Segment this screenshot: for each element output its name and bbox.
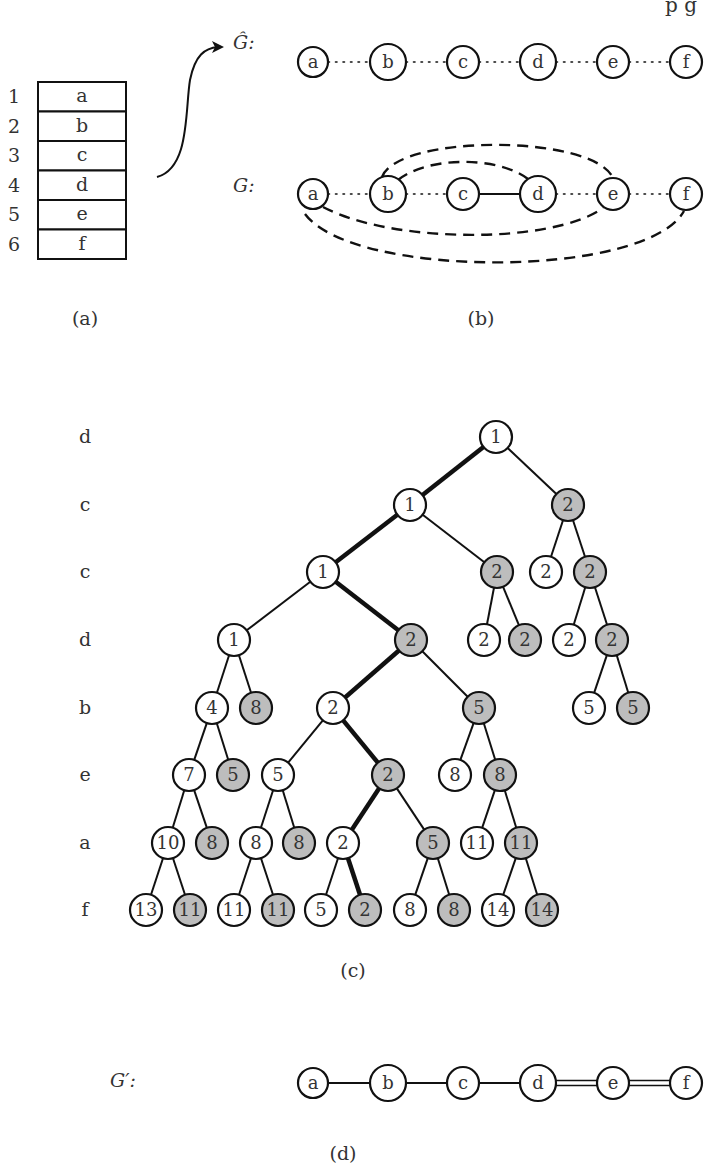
panel-a-array: 1a2b3c4d5e6f bbox=[8, 82, 126, 259]
tree-node: 10 bbox=[152, 827, 184, 859]
tree-node: 4 bbox=[196, 692, 228, 724]
level-label: c bbox=[80, 560, 91, 582]
tree-edge bbox=[574, 587, 586, 624]
row-value: b bbox=[76, 114, 88, 136]
tree-edge-optimal bbox=[352, 788, 379, 829]
array-row: 1a bbox=[8, 82, 126, 112]
node-label: 1 bbox=[228, 629, 239, 650]
node-label: 2 bbox=[359, 899, 370, 920]
row-index: 6 bbox=[8, 233, 20, 255]
tree-edge bbox=[595, 587, 607, 625]
node-label: d bbox=[532, 1072, 544, 1093]
node-label: 8 bbox=[293, 832, 304, 853]
tree-edge bbox=[217, 655, 229, 693]
tree-node: 14 bbox=[482, 894, 514, 926]
edge-a-e bbox=[323, 207, 603, 235]
tree-node-shaded: 8 bbox=[196, 827, 228, 859]
caption-d: (d) bbox=[330, 1142, 357, 1164]
tree-node: 13 bbox=[130, 894, 162, 926]
tree-edge bbox=[239, 655, 251, 693]
figure-canvas: p g 1a2b3c4d5e6f (a) Ĝ: abcdef G: abcdef… bbox=[0, 0, 719, 1171]
edges bbox=[305, 145, 684, 263]
tree-node-shaded: 8 bbox=[283, 827, 315, 859]
level-label: a bbox=[79, 831, 90, 853]
array-row: 2b bbox=[8, 112, 126, 142]
node-label: 11 bbox=[267, 899, 290, 920]
array-row: 3c bbox=[8, 141, 126, 171]
tree-node-shaded: 2 bbox=[552, 489, 584, 521]
tree-edge bbox=[239, 858, 251, 895]
tree-edge bbox=[487, 588, 494, 625]
tree-edge bbox=[460, 723, 473, 760]
node-label: 2 bbox=[563, 629, 574, 650]
tree-edge bbox=[422, 651, 467, 696]
tree-node: 1 bbox=[218, 624, 250, 656]
tree-node: 2 bbox=[468, 624, 500, 656]
tree-node-shaded: 2 bbox=[596, 624, 628, 656]
node-label: 10 bbox=[157, 832, 180, 853]
tree-node-shaded: 2 bbox=[395, 624, 427, 656]
node-label: b bbox=[382, 51, 394, 72]
tree-node: 2 bbox=[553, 624, 585, 656]
tree-node-shaded: 5 bbox=[417, 827, 449, 859]
node-label: 11 bbox=[223, 899, 246, 920]
tree-edge bbox=[508, 448, 557, 494]
tree-edge bbox=[482, 790, 495, 828]
node-label: 5 bbox=[272, 764, 283, 785]
tree-node: 11 bbox=[218, 894, 250, 926]
node-label: 8 bbox=[494, 764, 505, 785]
node-label: 2 bbox=[519, 629, 530, 650]
node-label: 8 bbox=[206, 832, 217, 853]
row-index: 2 bbox=[8, 115, 20, 137]
node-label: 2 bbox=[606, 629, 617, 650]
tree-edge bbox=[173, 858, 185, 895]
tree-node-shaded: 11 bbox=[505, 827, 537, 859]
node-label: 2 bbox=[584, 561, 595, 582]
tree-edge bbox=[173, 790, 185, 827]
mapping-arrow bbox=[157, 47, 218, 177]
array-row: 6f bbox=[8, 230, 126, 260]
tree-edge-optimal bbox=[348, 858, 360, 895]
node-label: 8 bbox=[250, 697, 261, 718]
row-value: e bbox=[76, 202, 87, 224]
graph-g-prime: abcdef bbox=[298, 1065, 702, 1101]
graph-node-e: e bbox=[597, 1067, 629, 1099]
graph-node-c: c bbox=[447, 178, 479, 210]
tree-level-labels: dccdbeaf bbox=[79, 425, 91, 920]
edge-b-e bbox=[382, 145, 613, 178]
graph-g: abcdef bbox=[298, 145, 702, 263]
caption-a: (a) bbox=[72, 307, 98, 329]
node-label: 2 bbox=[337, 832, 348, 853]
row-value: a bbox=[76, 84, 87, 106]
tree-node: 8 bbox=[439, 759, 471, 791]
graph-node-d: d bbox=[520, 1065, 556, 1101]
graph-node-b: b bbox=[370, 44, 406, 80]
node-label: c bbox=[458, 1072, 468, 1093]
tree-node: 5 bbox=[305, 894, 337, 926]
tree-node: 7 bbox=[173, 759, 205, 791]
tree-edge bbox=[573, 520, 585, 557]
node-label: 11 bbox=[510, 832, 533, 853]
graph-node-f: f bbox=[670, 46, 702, 78]
tree-edge-optimal bbox=[343, 720, 378, 762]
tree-edge bbox=[617, 655, 629, 692]
tree-edge bbox=[503, 858, 516, 895]
node-label: 5 bbox=[427, 832, 438, 853]
graph-node-a: a bbox=[298, 1068, 328, 1098]
graph-g-hat: abcdef bbox=[298, 44, 702, 80]
tree-node-shaded: 8 bbox=[240, 692, 272, 724]
tree-edge bbox=[503, 587, 519, 625]
node-label: 1 bbox=[317, 561, 328, 582]
tree-node: 8 bbox=[240, 827, 272, 859]
node-label: 2 bbox=[491, 561, 502, 582]
tree-edge bbox=[415, 858, 428, 895]
level-label: d bbox=[79, 628, 91, 650]
node-label: e bbox=[608, 1072, 619, 1093]
tree-edge bbox=[551, 520, 563, 557]
node-label: 5 bbox=[227, 764, 238, 785]
row-value: d bbox=[76, 173, 88, 195]
tree-edge bbox=[326, 858, 338, 895]
node-label: 1 bbox=[404, 494, 415, 515]
node-label: d bbox=[532, 51, 544, 72]
node-label: e bbox=[608, 183, 619, 204]
